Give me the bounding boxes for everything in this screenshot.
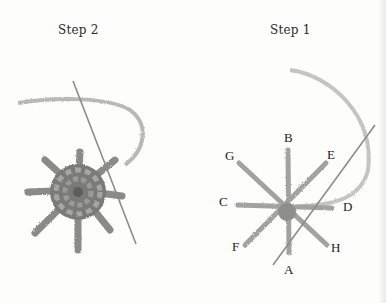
label-h: H: [331, 240, 340, 256]
label-b: B: [284, 130, 293, 146]
label-f: F: [232, 239, 239, 255]
label-e: E: [327, 147, 335, 163]
step-2-woven-web: [18, 99, 143, 250]
label-a: A: [284, 262, 293, 278]
label-g: G: [225, 148, 234, 164]
label-d: D: [343, 199, 352, 215]
label-c: C: [219, 194, 228, 210]
